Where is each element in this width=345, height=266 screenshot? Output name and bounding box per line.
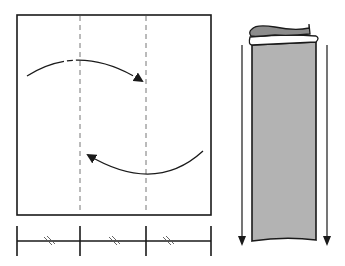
down-arrow-right-icon <box>323 45 331 246</box>
diagram-canvas: Letter fold (tri-fold) illustration <box>0 0 345 266</box>
sheet-outline <box>17 15 211 215</box>
flat-sheet <box>17 15 211 215</box>
thirds-scale <box>17 226 211 256</box>
down-arrow-left-icon <box>238 45 246 246</box>
panel-body <box>252 42 316 241</box>
panel-top-flap <box>250 24 310 36</box>
fold-diagram <box>0 0 345 266</box>
folded-panel <box>249 24 318 241</box>
